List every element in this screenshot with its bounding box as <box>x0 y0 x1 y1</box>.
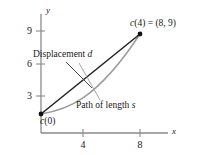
x-tick-label-4: 4 <box>75 140 91 150</box>
calculus-displacement-figure: y x 9 6 3 4 8 Displacement d Path of len… <box>0 0 198 155</box>
end-point-arg: (4) = (8, 9) <box>134 18 176 28</box>
displacement-annotation-text: Displacement <box>33 49 88 59</box>
y-axis-label: y <box>46 6 50 15</box>
x-axis-label: x <box>172 127 176 136</box>
displacement-annotation: Displacement d <box>33 50 92 60</box>
path-annotation: Path of length s <box>76 101 135 111</box>
start-point-label: c(0) <box>40 117 55 127</box>
y-tick-label-3: 3 <box>16 91 32 101</box>
displacement-symbol: d <box>88 49 93 59</box>
y-tick-label-6: 6 <box>16 59 32 69</box>
x-tick-label-8: 8 <box>132 140 148 150</box>
path-symbol: s <box>132 100 136 110</box>
end-point-label: c(4) = (8, 9) <box>130 19 176 29</box>
start-point-arg: (0) <box>44 116 55 126</box>
end-point-marker <box>138 32 143 37</box>
path-annotation-text: Path of length <box>76 100 132 110</box>
y-tick-label-9: 9 <box>16 26 32 36</box>
